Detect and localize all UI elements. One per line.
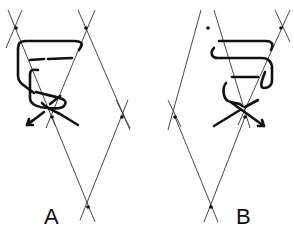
- node-top-left: [206, 26, 210, 30]
- panel-b-strand: [212, 41, 273, 126]
- node-top-left: [14, 26, 18, 30]
- node-mid-left: [50, 115, 54, 119]
- knot-diagram-figure: A B: [0, 0, 294, 233]
- panel-b-label: B: [236, 204, 251, 229]
- node-top-right: [279, 26, 283, 30]
- node-mid-right: [120, 115, 124, 119]
- panel-a-nodes: [14, 26, 124, 209]
- node-bottom: [86, 205, 90, 209]
- panel-b: B: [168, 10, 290, 229]
- node-top-right: [84, 26, 88, 30]
- panel-a: A: [6, 10, 130, 229]
- panel-a-label: A: [44, 204, 59, 229]
- node-mid-left: [173, 115, 177, 119]
- node-mid-right: [243, 115, 247, 119]
- node-bottom: [209, 205, 213, 209]
